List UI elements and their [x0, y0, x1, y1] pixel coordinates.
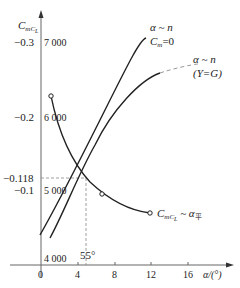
x-tick: 0: [38, 270, 43, 280]
series-cm0-label-bottom: Cm=0: [150, 36, 174, 49]
y-left-tick: −0.1: [14, 185, 34, 196]
series-yg-line: [50, 73, 160, 238]
x-axis-title: α/(°): [203, 270, 222, 280]
angle-annotation: 55°: [80, 250, 95, 261]
series-cm0-line: [40, 38, 146, 235]
x-tick: 4: [75, 270, 80, 280]
y-left-tick: −0.118: [3, 173, 34, 184]
y-left-tick: −0.3: [14, 37, 34, 48]
y-right-tick: 6 000: [44, 113, 67, 123]
series-cm0-label-top: α ~ n: [150, 22, 173, 33]
data-point-marker: [49, 94, 53, 98]
series-yg-label-top: α ~ n: [193, 54, 216, 65]
series-yg-label-bottom: (Y=G): [193, 68, 222, 79]
y-axis-arrow-icon: [39, 10, 44, 18]
y-left-tick: −0.2: [14, 112, 34, 123]
data-point-marker: [100, 192, 104, 196]
chart-plot: [0, 0, 240, 288]
y-right-tick: 5 000: [44, 186, 67, 196]
y-left-axis-title: CmCL: [18, 20, 38, 34]
x-tick: 8: [112, 270, 117, 280]
x-tick: 16: [183, 270, 193, 280]
x-tick: 12: [146, 270, 156, 280]
data-point-marker: [148, 211, 152, 215]
series-cm-curve-label: CmCL ~ α平: [157, 208, 202, 222]
x-axis-arrow-icon: [226, 263, 234, 268]
y-right-tick: 7 000: [44, 38, 67, 48]
y-right-tick: 4 000: [44, 254, 67, 264]
